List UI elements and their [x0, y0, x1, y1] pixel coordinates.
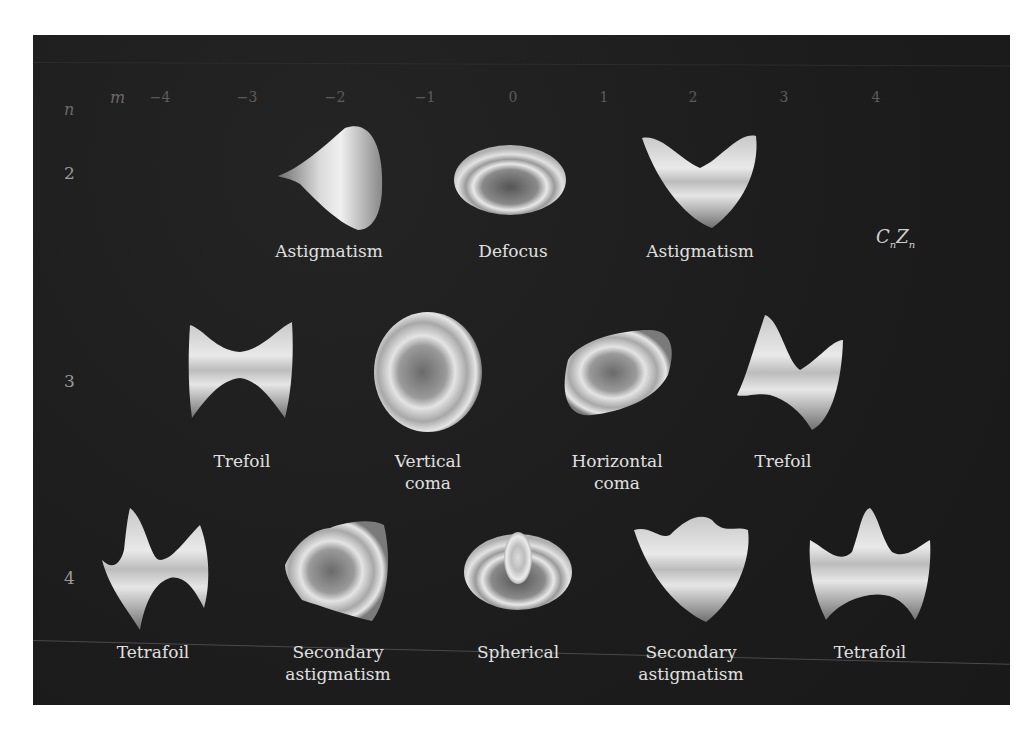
defocus-surface	[454, 145, 566, 215]
secondary-astigmatism-pos2-surface	[634, 517, 749, 622]
trefoil-neg3-surface	[189, 322, 293, 418]
spherical-peak	[504, 532, 532, 584]
caption-secondary-astigmatism-pos2: Secondary astigmatism	[638, 641, 743, 685]
caption-line: Trefoil	[755, 450, 812, 472]
caption-spherical: Spherical	[477, 641, 559, 663]
caption-line: astigmatism	[638, 663, 743, 685]
astigmatism-pos2-surface	[642, 136, 757, 228]
vertical-coma-surface	[374, 312, 482, 432]
caption-line: coma	[571, 472, 662, 494]
caption-line: coma	[395, 472, 461, 494]
secondary-astigmatism-neg2-surface	[285, 521, 388, 621]
caption-astigmatism-pos2: Astigmatism	[646, 240, 754, 262]
caption-defocus: Defocus	[478, 240, 547, 262]
caption-line: Secondary	[638, 641, 743, 663]
caption-line: Spherical	[477, 641, 559, 663]
caption-line: Horizontal	[571, 450, 662, 472]
caption-trefoil-pos3: Trefoil	[755, 450, 812, 472]
caption-line: Trefoil	[214, 450, 271, 472]
trefoil-pos3-surface	[737, 315, 843, 430]
tetrafoil-neg4-surface	[102, 508, 208, 630]
caption-line: Tetrafoil	[834, 641, 907, 663]
horizontal-coma-surface	[565, 330, 672, 415]
caption-astigmatism-neg2: Astigmatism	[275, 240, 383, 262]
tetrafoil-pos4-surface	[810, 508, 931, 620]
caption-tetrafoil-pos4: Tetrafoil	[834, 641, 907, 663]
caption-secondary-astigmatism-neg2: Secondary astigmatism	[285, 641, 390, 685]
caption-line: astigmatism	[285, 663, 390, 685]
caption-line: Tetrafoil	[117, 641, 190, 663]
caption-horizontal-coma: Horizontal coma	[571, 450, 662, 494]
caption-line: Secondary	[285, 641, 390, 663]
astigmatism-neg2-surface	[278, 126, 382, 230]
caption-line: Astigmatism	[646, 240, 754, 262]
caption-line: Defocus	[478, 240, 547, 262]
caption-line: Astigmatism	[275, 240, 383, 262]
caption-line: Vertical	[395, 450, 461, 472]
caption-tetrafoil-neg4: Tetrafoil	[117, 641, 190, 663]
caption-trefoil-neg3: Trefoil	[214, 450, 271, 472]
caption-vertical-coma: Vertical coma	[395, 450, 461, 494]
surfaces-layer	[0, 0, 1029, 733]
